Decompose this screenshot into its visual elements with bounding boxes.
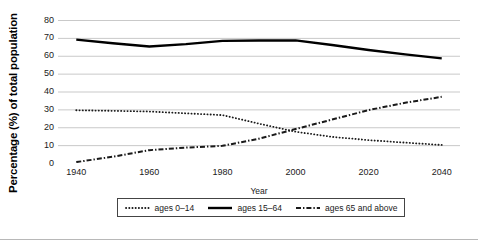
legend-item[interactable]: ages 65 and above bbox=[295, 203, 397, 213]
y-tick-label: 60 bbox=[32, 51, 54, 60]
dash-dot-line-icon bbox=[295, 204, 321, 212]
y-axis-tick-labels: 01020304050607080 bbox=[30, 20, 54, 163]
chart-figure: Percentage (%) of total population 01020… bbox=[0, 0, 478, 246]
x-tick-label: 1960 bbox=[139, 167, 159, 177]
legend-label: ages 65 and above bbox=[325, 203, 397, 213]
legend-item[interactable]: ages 0–14 bbox=[125, 203, 195, 213]
legend-label: ages 0–14 bbox=[155, 203, 195, 213]
y-axis-title: Percentage (%) of total population bbox=[7, 13, 19, 193]
y-tick-label: 20 bbox=[32, 123, 54, 132]
plot-svg bbox=[58, 20, 460, 163]
legend-item[interactable]: ages 15–64 bbox=[207, 203, 281, 213]
footer-divider bbox=[0, 239, 478, 240]
legend-label: ages 15–64 bbox=[237, 203, 281, 213]
chart-legend: ages 0–14ages 15–64ages 65 and above bbox=[117, 198, 405, 217]
plot-area bbox=[58, 20, 460, 163]
x-axis-title: Year bbox=[58, 186, 460, 196]
x-tick-label: 2020 bbox=[359, 167, 379, 177]
series-line-ages-15-64 bbox=[76, 40, 441, 59]
series-line-ages-65-and-above bbox=[76, 97, 441, 162]
x-tick-label: 1940 bbox=[66, 167, 86, 177]
y-tick-label: 80 bbox=[32, 16, 54, 25]
y-tick-label: 0 bbox=[32, 159, 54, 168]
solid-line-icon bbox=[207, 204, 233, 212]
y-tick-label: 30 bbox=[32, 105, 54, 114]
x-axis-tick-labels: 194019601980200020202040 bbox=[58, 167, 460, 181]
dotted-line-icon bbox=[125, 204, 151, 212]
y-tick-label: 40 bbox=[32, 87, 54, 96]
x-tick-label: 1980 bbox=[212, 167, 232, 177]
x-tick-label: 2040 bbox=[432, 167, 452, 177]
y-tick-label: 70 bbox=[32, 33, 54, 42]
y-tick-label: 10 bbox=[32, 141, 54, 150]
x-tick-label: 2000 bbox=[286, 167, 306, 177]
y-tick-label: 50 bbox=[32, 69, 54, 78]
